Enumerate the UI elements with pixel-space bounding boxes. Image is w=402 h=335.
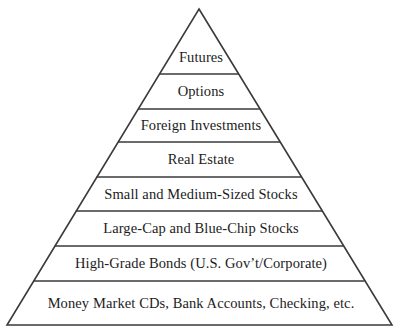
pyramid-tier-label-2: Options	[0, 84, 402, 99]
pyramid-tier-label-4: Real Estate	[0, 152, 402, 167]
pyramid-tier-label-5: Small and Medium-Sized Stocks	[0, 187, 402, 202]
pyramid-tier-label-3: Foreign Investments	[0, 118, 402, 133]
investment-pyramid-figure: Futures Options Foreign Investments Real…	[0, 0, 402, 335]
pyramid-tier-label-6: Large-Cap and Blue-Chip Stocks	[0, 221, 402, 236]
pyramid-tier-label-7: High-Grade Bonds (U.S. Gov’t/Corporate)	[0, 256, 402, 271]
pyramid-tier-label-8: Money Market CDs, Bank Accounts, Checkin…	[0, 296, 402, 311]
pyramid-tier-label-1: Futures	[0, 50, 402, 65]
